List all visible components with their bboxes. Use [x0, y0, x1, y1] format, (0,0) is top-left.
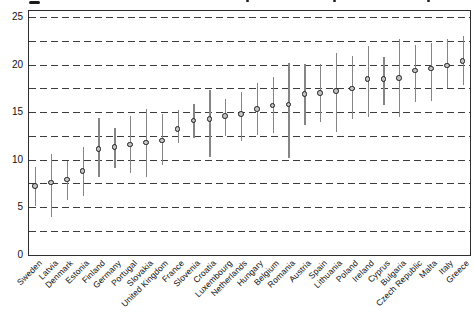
data-point [64, 177, 70, 183]
y-tick-label: 10 [0, 154, 23, 165]
error-bar [431, 43, 432, 101]
data-point [460, 58, 466, 64]
y-tick-label: 15 [0, 106, 23, 117]
error-bar [209, 90, 210, 157]
data-point [222, 113, 228, 119]
error-bar [368, 46, 369, 117]
y-tick-label: 0 [0, 249, 23, 260]
cropped-caption-fragment [246, 0, 249, 2]
data-point [48, 180, 54, 186]
gridline [29, 88, 470, 89]
data-point [381, 76, 387, 82]
data-point [112, 144, 118, 150]
data-point [349, 86, 355, 92]
data-point [254, 106, 260, 112]
y-tick-label: 5 [0, 201, 23, 212]
y-tick-label: 25 [0, 11, 23, 22]
gridline [29, 112, 470, 113]
cropped-caption-fragment [333, 0, 336, 2]
gridline [29, 65, 470, 66]
gridline [29, 136, 470, 137]
data-point [444, 63, 450, 69]
data-point [207, 116, 213, 122]
data-point [333, 88, 339, 94]
data-point [191, 118, 197, 124]
error-bar [51, 154, 52, 217]
data-point [127, 142, 133, 148]
data-point [32, 183, 38, 189]
error-bar [415, 45, 416, 102]
gridline [29, 160, 470, 161]
data-point [365, 76, 371, 82]
data-point [396, 75, 402, 81]
data-point [175, 126, 181, 132]
gridline [29, 183, 470, 184]
data-point [238, 111, 244, 117]
gridline [29, 17, 470, 18]
error-bar [288, 63, 289, 158]
gridline [29, 41, 470, 42]
plot-area [28, 10, 471, 256]
data-point [302, 91, 308, 97]
figure: 0510152025 SwedenLatviaDenmarkEstoniaFin… [0, 0, 475, 316]
data-point [428, 66, 434, 72]
data-point [317, 90, 323, 96]
data-point [143, 140, 149, 146]
data-point [96, 146, 102, 152]
gridline [29, 207, 470, 208]
data-point [412, 68, 418, 74]
data-point [159, 138, 165, 144]
data-point [80, 168, 86, 174]
data-point [286, 102, 292, 108]
y-tick-label: 20 [0, 59, 23, 70]
cropped-caption-fragment [29, 1, 40, 4]
gridline [29, 231, 470, 232]
cropped-caption-fragment [427, 0, 430, 2]
data-point [270, 103, 276, 109]
